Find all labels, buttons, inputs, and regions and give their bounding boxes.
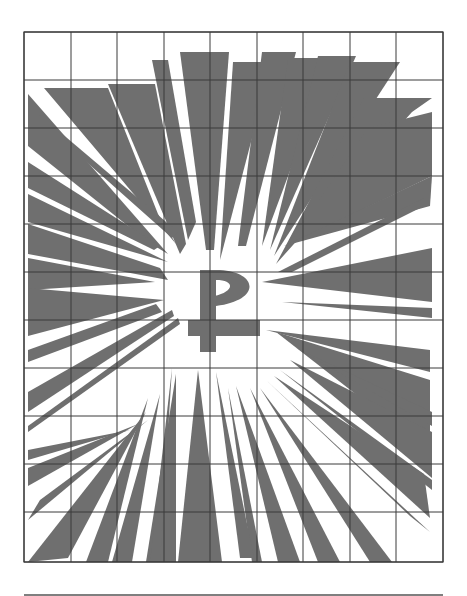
sunburst-ray bbox=[28, 318, 180, 432]
chi-rho-stem bbox=[200, 270, 216, 352]
sunburst-figure bbox=[0, 0, 467, 596]
sunburst-ray bbox=[178, 370, 222, 562]
chi-rho-crossbar bbox=[188, 320, 260, 336]
sunburst-ray bbox=[262, 248, 432, 302]
sunburst-ray bbox=[282, 302, 432, 318]
chi-rho-symbol bbox=[188, 270, 260, 352]
